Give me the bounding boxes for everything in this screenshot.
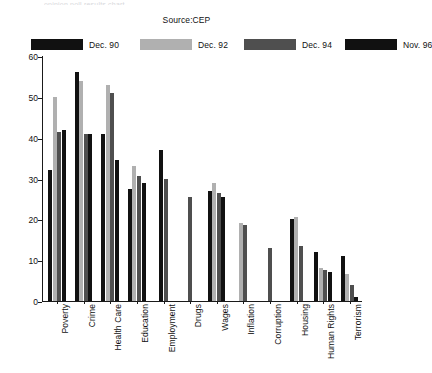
bar-group [128, 56, 146, 301]
y-axis-labels: 0102030405060 [20, 56, 38, 302]
y-axis-tick-label: 10 [22, 257, 38, 265]
bar [328, 272, 332, 301]
legend-label: Dec. 90 [89, 40, 119, 50]
x-axis-category-label: Crime [87, 304, 97, 327]
x-axis-category-label: Corruption [273, 304, 283, 345]
bar [268, 248, 272, 301]
y-axis-tick [38, 57, 42, 58]
bar [164, 179, 168, 302]
x-axis-category-label: Terrorism [353, 304, 363, 340]
y-axis-tick [38, 98, 42, 99]
chart-source-label: Source:CEP [0, 15, 373, 25]
legend-label: Dec. 94 [302, 40, 332, 50]
bar [106, 85, 110, 301]
y-axis-tick-label: 30 [22, 176, 38, 184]
bar-group [341, 56, 359, 301]
bar-group [48, 56, 66, 301]
legend-swatch-icon [244, 39, 296, 50]
bar-groups [43, 56, 362, 301]
bar [88, 134, 92, 301]
bar [142, 183, 146, 301]
y-axis-tick-label: 40 [22, 135, 38, 143]
x-axis-category-label: Housing [300, 304, 310, 336]
x-axis-category-label: Inflation [246, 304, 256, 335]
legend-swatch-icon [345, 39, 397, 50]
legend-item-1[interactable]: Dec. 92 [140, 38, 228, 51]
bar [48, 170, 52, 301]
bar [354, 297, 358, 301]
legend-item-0[interactable]: Dec. 90 [31, 38, 119, 51]
bar [208, 191, 212, 301]
bar [75, 72, 79, 301]
bar [299, 246, 303, 301]
bar-group [159, 56, 168, 301]
x-axis-category-label: Poverty [60, 304, 70, 334]
bar-group [188, 56, 193, 301]
bar [132, 166, 136, 301]
x-axis-category-label: Education [140, 304, 150, 343]
y-axis-tick [38, 261, 42, 262]
y-axis-tick [38, 302, 42, 303]
y-axis-tick [38, 139, 42, 140]
chart-legend: Dec. 90Dec. 92Dec. 94Nov. 96 [31, 38, 365, 51]
plot-area [42, 56, 362, 302]
bar-group [314, 56, 332, 301]
legend-item-2[interactable]: Dec. 94 [244, 38, 332, 51]
legend-label: Nov. 96 [403, 40, 432, 50]
bar [159, 150, 163, 301]
y-axis-tick [38, 220, 42, 221]
bar [101, 134, 105, 301]
cut-off-header-text: opinion poll results chart [44, 0, 294, 5]
bar-group [75, 56, 93, 301]
bar [341, 256, 345, 301]
bar [314, 252, 318, 301]
bar [319, 268, 323, 301]
y-axis-tick-label: 20 [22, 216, 38, 224]
bar-group [208, 56, 226, 301]
bar [221, 197, 225, 301]
bar [110, 93, 114, 301]
bar [137, 176, 141, 301]
x-axis-category-label: Drugs [193, 304, 203, 327]
legend-swatch-icon [31, 39, 83, 50]
legend-item-3[interactable]: Nov. 96 [345, 38, 432, 51]
bar [62, 130, 66, 302]
bar [217, 193, 221, 301]
bar [128, 189, 132, 301]
bar [290, 219, 294, 301]
bar [294, 217, 298, 301]
y-axis-tick-label: 60 [22, 53, 38, 61]
x-axis-category-label: Employment [167, 304, 177, 352]
bar-group [268, 56, 273, 301]
bar-group [239, 56, 248, 301]
x-axis-category-label: Health Care [113, 304, 123, 350]
bar [350, 285, 354, 301]
bar [53, 97, 57, 301]
bar [188, 197, 192, 301]
bar [84, 134, 88, 301]
bar-group [101, 56, 119, 301]
bar [243, 225, 247, 301]
bar-group [290, 56, 304, 301]
bar [345, 274, 349, 301]
x-axis-category-label: Wages [220, 304, 230, 331]
x-axis-line [42, 301, 362, 302]
y-axis-tick [38, 180, 42, 181]
bar [212, 183, 216, 301]
legend-swatch-icon [140, 39, 192, 50]
bar [57, 132, 61, 301]
x-axis-category-label: Human Rights [326, 304, 336, 359]
x-axis-labels: PovertyCrimeHealth CareEducationEmployme… [42, 304, 362, 373]
bar [115, 160, 119, 301]
y-axis-tick-label: 50 [22, 94, 38, 102]
bar [323, 270, 327, 301]
y-axis-tick-label: 0 [22, 298, 38, 306]
legend-label: Dec. 92 [198, 40, 228, 50]
bar [79, 81, 83, 302]
bar [239, 223, 243, 301]
